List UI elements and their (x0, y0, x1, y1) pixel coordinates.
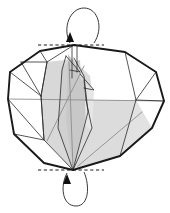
figure-canvas (0, 0, 170, 213)
edge-left-lower-a (14, 96, 44, 140)
edge-left-upper-b (21, 62, 41, 96)
polyhedron-rotation-figure: Polyhedron with rotation axis Line drawi… (0, 0, 170, 213)
shaded-faces-group (41, 54, 152, 170)
edge-right-upper (125, 52, 156, 100)
edge-left-diag (10, 72, 41, 96)
